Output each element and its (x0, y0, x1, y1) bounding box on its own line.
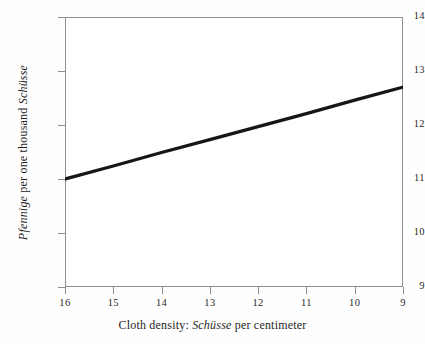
x-tick-label: 14 (147, 297, 177, 308)
y-tick-label: 11 (381, 172, 425, 183)
x-tick-label: 9 (388, 297, 418, 308)
x-tick-mark (306, 287, 307, 294)
y-axis-title: Pfennige per one thousand Schüsse (16, 8, 31, 298)
x-tick-label: 16 (50, 297, 80, 308)
x-axis-title-suffix: per centimeter (232, 318, 307, 332)
x-tick-label: 11 (291, 297, 321, 308)
y-tick-label: 14 (381, 10, 425, 21)
y-tick-mark (58, 71, 65, 72)
y-tick-label: 13 (381, 64, 425, 75)
y-axis-title-middle: per one thousand (16, 104, 30, 196)
y-tick-mark (58, 233, 65, 234)
x-tick-mark (210, 287, 211, 294)
x-tick-mark (162, 287, 163, 294)
y-tick-mark (58, 125, 65, 126)
x-tick-label: 12 (243, 297, 273, 308)
x-axis-title-prefix: Cloth density: (118, 318, 192, 332)
y-tick-label: 12 (381, 118, 425, 129)
y-tick-mark (58, 287, 65, 288)
plot-canvas (65, 17, 403, 287)
x-tick-mark (355, 287, 356, 294)
x-tick-label: 13 (195, 297, 225, 308)
x-tick-mark (65, 287, 66, 294)
x-tick-label: 15 (98, 297, 128, 308)
x-tick-mark (258, 287, 259, 294)
x-axis-title-italic: Schüsse (192, 318, 231, 332)
y-tick-mark (58, 17, 65, 18)
x-axis-title: Cloth density: Schüsse per centimeter (0, 318, 425, 333)
y-axis-title-italic-1: Pfennige (16, 196, 30, 240)
x-tick-mark (403, 287, 404, 294)
y-tick-label: 10 (381, 226, 425, 237)
y-axis-title-italic-2: Schüsse (16, 65, 30, 104)
x-tick-mark (113, 287, 114, 294)
chart-figure: 91011121314 161514131211109 Cloth densit… (0, 0, 425, 344)
x-tick-label: 10 (340, 297, 370, 308)
y-tick-mark (58, 179, 65, 180)
data-series-line (65, 87, 403, 179)
